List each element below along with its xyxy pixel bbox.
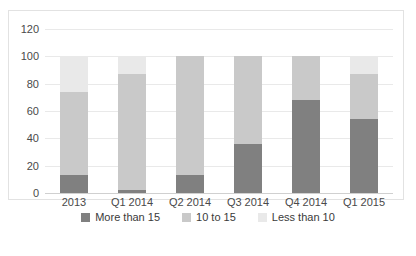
bar-slot: [277, 29, 335, 193]
bar-series-group: [45, 29, 393, 193]
bar-segment[interactable]: [118, 190, 146, 193]
bar-slot: [103, 29, 161, 193]
gridline: [45, 193, 393, 194]
bar-segment[interactable]: [350, 56, 378, 74]
bar-stack[interactable]: [118, 56, 146, 193]
legend-item-label: Less than 10: [272, 212, 335, 223]
bar-stack[interactable]: [350, 56, 378, 193]
bar-segment[interactable]: [292, 100, 320, 193]
x-axis-category-label: Q1 2014: [103, 197, 161, 208]
bar-stack[interactable]: [292, 56, 320, 193]
bar-slot: [219, 29, 277, 193]
legend-swatch-icon: [81, 213, 90, 222]
bar-segment[interactable]: [350, 74, 378, 119]
y-axis-tick-label: 20: [27, 160, 39, 171]
chart-legend: More than 1510 to 15Less than 10: [0, 212, 416, 223]
chart-frame: 020406080100120 2013Q1 2014Q2 2014Q3 201…: [8, 10, 404, 200]
y-axis-tick-label: 0: [33, 188, 39, 199]
plot-area: 020406080100120: [45, 29, 393, 193]
legend-item[interactable]: Less than 10: [258, 212, 335, 223]
bar-segment[interactable]: [292, 56, 320, 100]
bar-segment[interactable]: [60, 56, 88, 92]
bar-slot: [45, 29, 103, 193]
bar-segment[interactable]: [234, 144, 262, 193]
bar-segment[interactable]: [350, 119, 378, 193]
bar-segment[interactable]: [118, 74, 146, 190]
y-axis-tick-label: 60: [27, 106, 39, 117]
legend-swatch-icon: [182, 213, 191, 222]
legend-item[interactable]: 10 to 15: [182, 212, 236, 223]
bar-segment[interactable]: [60, 92, 88, 175]
legend-item-label: 10 to 15: [196, 212, 236, 223]
x-axis-category-label: 2013: [45, 197, 103, 208]
legend-item[interactable]: More than 15: [81, 212, 160, 223]
bar-segment[interactable]: [118, 56, 146, 74]
x-axis-category-label: Q2 2014: [161, 197, 219, 208]
x-axis-category-label: Q3 2014: [219, 197, 277, 208]
x-axis-category-labels: 2013Q1 2014Q2 2014Q3 2014Q4 2014Q1 2015: [45, 197, 393, 208]
y-axis-tick-label: 100: [21, 51, 39, 62]
x-axis-category-label: Q4 2014: [277, 197, 335, 208]
bar-stack[interactable]: [60, 56, 88, 193]
bar-segment[interactable]: [176, 175, 204, 193]
bar-stack[interactable]: [176, 56, 204, 193]
y-axis-tick-label: 120: [21, 24, 39, 35]
bar-stack[interactable]: [234, 56, 262, 193]
bar-segment[interactable]: [60, 175, 88, 193]
y-axis-tick-label: 40: [27, 133, 39, 144]
legend-item-label: More than 15: [95, 212, 160, 223]
bar-segment[interactable]: [234, 56, 262, 143]
legend-swatch-icon: [258, 213, 267, 222]
y-axis-tick-label: 80: [27, 78, 39, 89]
bar-slot: [161, 29, 219, 193]
bar-segment[interactable]: [176, 56, 204, 175]
x-axis-category-label: Q1 2015: [335, 197, 393, 208]
bar-slot: [335, 29, 393, 193]
